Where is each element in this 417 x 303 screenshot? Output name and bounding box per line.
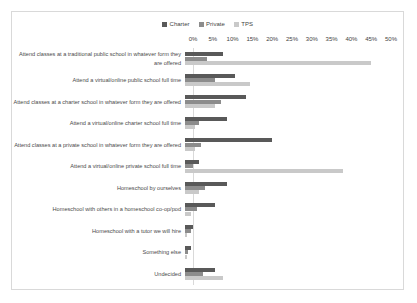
- bar-group: [185, 177, 385, 199]
- x-axis-tick: 15%: [246, 36, 258, 42]
- x-axis-tick: 10%: [227, 36, 239, 42]
- category-label: Undecided: [12, 270, 185, 278]
- chart-legend: Charter Private TPS: [12, 21, 403, 27]
- x-axis-tick: 40%: [345, 36, 357, 42]
- bar-row: Something else: [12, 242, 403, 264]
- category-label: Attend a virtual/online private school f…: [12, 162, 185, 170]
- bar-tps: [185, 125, 195, 129]
- bar-tps: [185, 212, 191, 216]
- x-axis-tick: 35%: [326, 36, 338, 42]
- legend-entry-tps: TPS: [234, 21, 253, 27]
- bar-row: Undecided: [12, 263, 403, 285]
- category-label: Attend a virtual/online charter school f…: [12, 119, 185, 127]
- category-label: Homeschool with others in a homeschool c…: [12, 205, 185, 213]
- bar-group: [185, 156, 385, 178]
- x-axis-tick: 20%: [266, 36, 278, 42]
- bar-row: Attend classes at a private school in wh…: [12, 134, 403, 156]
- bar-row: Attend a virtual/online private school f…: [12, 156, 403, 178]
- x-axis-tick: 0%: [189, 36, 198, 42]
- bar-tps: [185, 169, 343, 173]
- x-axis-tick: 30%: [306, 36, 318, 42]
- bar-tps: [185, 104, 215, 108]
- category-label: Attend classes at a private school in wh…: [12, 141, 185, 149]
- bar-tps: [185, 61, 371, 65]
- bar-group: [185, 242, 385, 264]
- category-label: Attend classes at a traditional public s…: [12, 50, 185, 67]
- category-label: Attend classes at a charter school in wh…: [12, 98, 185, 106]
- category-label: Homeschool with a tutor we will hire: [12, 227, 185, 235]
- bar-tps: [185, 276, 223, 280]
- legend-label-private: Private: [206, 21, 225, 27]
- category-label: Homeschool by ourselves: [12, 184, 185, 192]
- bar-tps: [185, 233, 187, 237]
- bar-group: [185, 91, 385, 113]
- legend-swatch-charter: [162, 22, 167, 27]
- x-axis-tick: 5%: [208, 36, 217, 42]
- legend-label-tps: TPS: [241, 21, 253, 27]
- bar-tps: [185, 190, 199, 194]
- bar-rows: Attend classes at a traditional public s…: [12, 48, 403, 285]
- bar-group: [185, 263, 385, 285]
- bar-tps: [185, 82, 250, 86]
- legend-label-charter: Charter: [170, 21, 190, 27]
- legend-swatch-private: [199, 22, 204, 27]
- legend-entry-private: Private: [199, 21, 225, 27]
- bar-row: Homeschool with others in a homeschool c…: [12, 199, 403, 221]
- bar-group: [185, 134, 385, 156]
- bar-tps: [185, 255, 187, 259]
- bar-group: [185, 220, 385, 242]
- bar-group: [185, 48, 385, 70]
- bar-row: Attend classes at a charter school in wh…: [12, 91, 403, 113]
- plot-area: 0%5%10%15%20%25%30%35%40%45%50% Attend c…: [12, 36, 403, 289]
- category-label: Attend a virtual/online public school fu…: [12, 76, 185, 84]
- bar-group: [185, 113, 385, 135]
- x-axis-tick: 45%: [365, 36, 377, 42]
- bar-row: Attend a virtual/online charter school f…: [12, 113, 403, 135]
- chart-frame: Charter Private TPS 0%5%10%15%20%25%30%3…: [11, 11, 404, 290]
- bar-row: Attend classes at a traditional public s…: [12, 48, 403, 70]
- bar-group: [185, 199, 385, 221]
- bar-group: [185, 70, 385, 92]
- category-label: Something else: [12, 248, 185, 256]
- legend-entry-charter: Charter: [162, 21, 190, 27]
- x-axis-tick-labels: 0%5%10%15%20%25%30%35%40%45%50%: [193, 36, 391, 47]
- bar-row: Homeschool with a tutor we will hire: [12, 220, 403, 242]
- bar-tps: [185, 147, 195, 151]
- bar-row: Homeschool by ourselves: [12, 177, 403, 199]
- x-axis-tick: 50%: [385, 36, 397, 42]
- bar-row: Attend a virtual/online public school fu…: [12, 70, 403, 92]
- legend-swatch-tps: [234, 22, 239, 27]
- x-axis-tick: 25%: [286, 36, 298, 42]
